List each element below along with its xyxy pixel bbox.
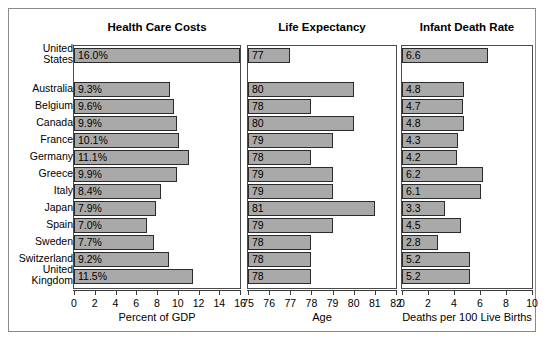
bar: 7.7% bbox=[74, 235, 154, 250]
bar: 4.2 bbox=[402, 150, 457, 165]
country-label: Italy bbox=[11, 185, 73, 196]
axis-tick bbox=[333, 291, 334, 295]
bar-value-label: 9.2% bbox=[78, 252, 102, 267]
bar-value-label: 5.2 bbox=[406, 252, 421, 267]
axis-tick-label: 76 bbox=[263, 297, 275, 309]
x-axis-title-health-care-costs: Percent of GDP bbox=[118, 311, 195, 323]
bar-value-label: 78 bbox=[252, 150, 264, 165]
bar: 6.2 bbox=[402, 167, 483, 182]
bar-value-label: 81 bbox=[252, 201, 264, 216]
country-label: Germany bbox=[11, 151, 73, 162]
bar: 78 bbox=[248, 252, 311, 267]
bar-value-label: 80 bbox=[252, 116, 264, 131]
country-label: Greece bbox=[11, 168, 73, 179]
bar-value-label: 11.5% bbox=[78, 269, 107, 284]
bar-value-label: 79 bbox=[252, 218, 264, 233]
bar: 9.6% bbox=[74, 99, 174, 114]
bar-value-label: 78 bbox=[252, 269, 264, 284]
bar-value-label: 4.7 bbox=[406, 99, 421, 114]
bar: 6.6 bbox=[402, 48, 488, 63]
panel-infant-death-rate: 6.64.84.74.84.34.26.26.13.34.52.85.25.2 bbox=[401, 45, 533, 289]
bar-value-label: 10.1% bbox=[78, 133, 108, 148]
bar-value-label: 9.3% bbox=[78, 82, 102, 97]
bar: 9.3% bbox=[74, 82, 170, 97]
axis-tick bbox=[219, 291, 220, 295]
axis-tick-label: 6 bbox=[133, 297, 139, 309]
axis-tick bbox=[116, 291, 117, 295]
axis-tick bbox=[428, 291, 429, 295]
bar-value-label: 6.2 bbox=[406, 167, 421, 182]
axis-tick bbox=[269, 291, 270, 295]
country-label: Japan bbox=[11, 202, 73, 213]
bar: 9.9% bbox=[74, 167, 177, 182]
bar-value-label: 5.2 bbox=[406, 269, 421, 284]
axis-tick bbox=[454, 291, 455, 295]
x-axis-title-life-expectancy: Age bbox=[312, 311, 332, 323]
axis-tick bbox=[74, 291, 75, 295]
bar: 78 bbox=[248, 150, 311, 165]
bar: 79 bbox=[248, 133, 333, 148]
bar: 77 bbox=[248, 48, 290, 63]
axis-tick-label: 0 bbox=[399, 297, 405, 309]
country-label: Spain bbox=[11, 219, 73, 230]
axis-tick bbox=[402, 291, 403, 295]
country-label: UnitedStates bbox=[11, 43, 73, 65]
axis-tick bbox=[532, 291, 533, 295]
axis-tick bbox=[248, 291, 249, 295]
bar: 7.9% bbox=[74, 201, 156, 216]
bar: 11.5% bbox=[74, 269, 193, 284]
bar-value-label: 4.8 bbox=[406, 82, 421, 97]
axis-tick-label: 14 bbox=[213, 297, 225, 309]
country-label: Australia bbox=[11, 83, 73, 94]
axis-tick-label: 10 bbox=[172, 297, 184, 309]
axis-tick bbox=[95, 291, 96, 295]
bar: 7.0% bbox=[74, 218, 147, 233]
country-label: Canada bbox=[11, 117, 73, 128]
axis-tick bbox=[136, 291, 137, 295]
bar: 8.4% bbox=[74, 184, 161, 199]
x-axis-health-care-costs: 0246810121416 bbox=[73, 290, 241, 298]
x-axis-infant-death-rate: 0246810 bbox=[401, 290, 533, 298]
bar: 4.3 bbox=[402, 133, 458, 148]
axis-tick bbox=[506, 291, 507, 295]
axis-tick-label: 78 bbox=[306, 297, 318, 309]
bar-value-label: 78 bbox=[252, 99, 264, 114]
bar-value-label: 6.1 bbox=[406, 184, 421, 199]
panel-title-infant-death-rate: Infant Death Rate bbox=[401, 21, 533, 33]
axis-tick-label: 77 bbox=[284, 297, 296, 309]
axis-tick-label: 12 bbox=[193, 297, 205, 309]
bar-value-label: 2.8 bbox=[406, 235, 421, 250]
bar-value-label: 78 bbox=[252, 235, 264, 250]
axis-tick bbox=[354, 291, 355, 295]
bar: 6.1 bbox=[402, 184, 481, 199]
bar: 11.1% bbox=[74, 150, 189, 165]
axis-tick bbox=[178, 291, 179, 295]
axis-tick bbox=[157, 291, 158, 295]
axis-tick-label: 2 bbox=[92, 297, 98, 309]
bar-value-label: 16.0% bbox=[78, 48, 108, 63]
bar-value-label: 79 bbox=[252, 133, 264, 148]
axis-tick-label: 80 bbox=[348, 297, 360, 309]
panel-title-life-expectancy: Life Expectancy bbox=[247, 21, 397, 33]
panel-health-care-costs: 16.0%9.3%9.6%9.9%10.1%11.1%9.9%8.4%7.9%7… bbox=[73, 45, 241, 289]
bar-value-label: 4.5 bbox=[406, 218, 421, 233]
country-label: Belgium bbox=[11, 100, 73, 111]
axis-tick-label: 4 bbox=[451, 297, 457, 309]
bar-value-label: 9.6% bbox=[78, 99, 102, 114]
bar: 79 bbox=[248, 167, 333, 182]
axis-tick bbox=[311, 291, 312, 295]
bar-value-label: 80 bbox=[252, 82, 264, 97]
bar-value-label: 6.6 bbox=[406, 48, 421, 63]
bar: 9.2% bbox=[74, 252, 169, 267]
axis-tick bbox=[199, 291, 200, 295]
bar: 3.3 bbox=[402, 201, 445, 216]
bar-value-label: 8.4% bbox=[78, 184, 102, 199]
bars-health-care-costs: 16.0%9.3%9.6%9.9%10.1%11.1%9.9%8.4%7.9%7… bbox=[74, 46, 240, 288]
axis-tick-label: 79 bbox=[327, 297, 339, 309]
bar: 9.9% bbox=[74, 116, 177, 131]
bar-value-label: 4.2 bbox=[406, 150, 421, 165]
bar: 5.2 bbox=[402, 252, 470, 267]
bar: 4.8 bbox=[402, 82, 464, 97]
axis-tick bbox=[480, 291, 481, 295]
axis-tick-label: 2 bbox=[425, 297, 431, 309]
